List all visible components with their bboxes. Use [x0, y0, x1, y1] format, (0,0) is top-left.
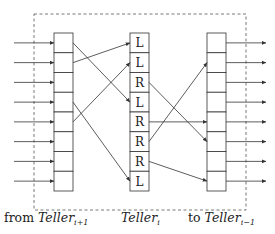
label-teller-i: Telleri	[121, 210, 160, 227]
route-arrow	[73, 43, 130, 63]
route-arrow	[149, 63, 207, 142]
left-buffer-cell	[54, 92, 73, 112]
route-arrow	[73, 63, 130, 122]
right-buffer-cell	[207, 33, 226, 53]
cell-label: R	[135, 135, 145, 149]
cell-label: R	[135, 155, 145, 169]
right-buffer-cell	[207, 53, 226, 73]
left-buffer-cell	[54, 112, 73, 132]
left-buffer-column	[54, 33, 73, 191]
right-buffer-cell	[207, 152, 226, 172]
right-buffer-column	[207, 33, 226, 191]
left-buffer-cell	[54, 132, 73, 152]
route-arrow	[73, 43, 130, 102]
cell-label: R	[135, 76, 145, 90]
label-to-teller: to Telleri−1	[188, 210, 255, 227]
right-buffer-cell	[207, 92, 226, 112]
right-buffer-cell	[207, 171, 226, 191]
route-arrow	[149, 82, 207, 141]
cell-label: L	[136, 36, 144, 50]
left-buffer-cell	[54, 171, 73, 191]
left-buffer-cell	[54, 33, 73, 53]
left-buffer-cell	[54, 53, 73, 73]
right-buffer-cell	[207, 132, 226, 152]
cell-label: L	[136, 56, 144, 70]
label-from-teller: from Telleri+1	[4, 210, 88, 227]
cell-label: L	[136, 175, 144, 189]
teller-routing-diagram: LLRLRRRL from Telleri+1 Telleri to Telle…	[0, 0, 275, 234]
route-arrow	[149, 161, 207, 181]
left-buffer-cell	[54, 73, 73, 93]
right-buffer-cell	[207, 73, 226, 93]
left-to-middle-connections	[73, 43, 130, 181]
left-buffer-cell	[54, 152, 73, 172]
route-arrow	[73, 102, 130, 181]
right-buffer-cell	[207, 112, 226, 132]
cell-label: R	[135, 115, 145, 129]
middle-to-right-connections	[149, 63, 207, 182]
cell-label: L	[136, 96, 144, 110]
middle-lr-column: LLRLRRRL	[130, 33, 149, 191]
